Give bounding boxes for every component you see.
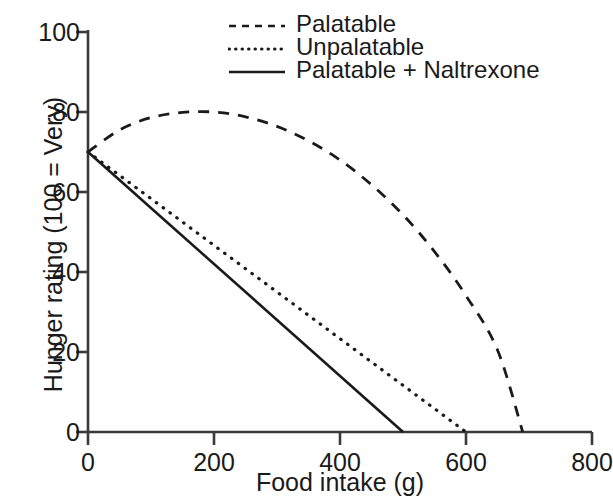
- x-axis-title: Food intake (g): [88, 470, 592, 495]
- legend-swatch-dashed-icon: [228, 18, 286, 30]
- chart-legend: Palatable Unpalatable Palatable + Naltre…: [228, 12, 540, 81]
- legend-item-palatable-naltrexone: Palatable + Naltrexone: [228, 58, 540, 81]
- legend-label-unpalatable: Unpalatable: [296, 35, 424, 59]
- legend-label-palatable: Palatable: [296, 12, 396, 36]
- legend-label-palatable-naltrexone: Palatable + Naltrexone: [296, 58, 540, 82]
- y-tick-label-100: 100: [0, 20, 80, 45]
- series-line-unpalatable: [88, 152, 466, 432]
- y-tick-marks: [76, 32, 88, 432]
- legend-item-unpalatable: Unpalatable: [228, 35, 540, 58]
- series-line-palatable-naltrexone: [88, 152, 403, 432]
- data-series-group: [88, 112, 523, 432]
- legend-item-palatable: Palatable: [228, 12, 540, 35]
- series-line-palatable: [88, 112, 523, 432]
- legend-swatch-dotted-icon: [228, 41, 286, 53]
- legend-swatch-solid-icon: [228, 64, 286, 76]
- axes-group: [76, 30, 592, 445]
- y-axis-title: Hunger rating (100 = Very): [41, 45, 66, 445]
- x-tick-marks: [88, 432, 592, 445]
